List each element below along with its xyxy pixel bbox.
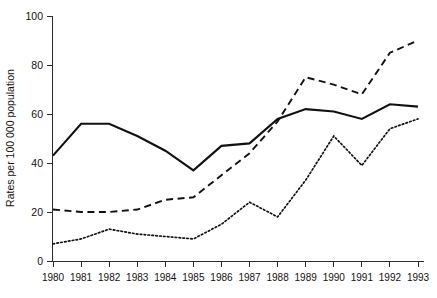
line-chart: 020406080100 Rates per 100 000 populatio… [0, 0, 437, 298]
x-tick-label: 1991 [351, 272, 374, 283]
x-tick-marks [53, 262, 418, 268]
x-tick-label: 1982 [98, 272, 121, 283]
x-tick-label: 1981 [70, 272, 93, 283]
y-tick-labels: 020406080100 [25, 10, 43, 267]
x-tick-label: 1983 [126, 272, 149, 283]
series-line-solid [53, 104, 418, 170]
y-tick-label: 80 [31, 59, 43, 71]
x-tick-label: 1992 [379, 272, 402, 283]
x-tick-label: 1989 [295, 272, 318, 283]
y-tick-label: 100 [25, 10, 43, 22]
x-tick-label: 1980 [42, 272, 65, 283]
x-tick-label: 1986 [210, 272, 233, 283]
chart-canvas: 020406080100 Rates per 100 000 populatio… [0, 0, 437, 298]
x-tick-labels: 1980198119821983198419851986198719881989… [42, 272, 430, 283]
x-tick-label: 1985 [182, 272, 205, 283]
y-tick-marks [47, 16, 53, 261]
y-tick-label: 0 [37, 255, 43, 267]
y-axis-title: Rates per 100 000 population [4, 69, 16, 207]
x-tick-label: 1993 [407, 272, 430, 283]
y-tick-label: 20 [31, 206, 43, 218]
series-line-dashed [53, 41, 418, 213]
x-tick-label: 1988 [266, 272, 289, 283]
series-line-dotted [53, 119, 418, 244]
y-axis-group: 020406080100 Rates per 100 000 populatio… [4, 10, 53, 267]
x-tick-label: 1990 [323, 272, 346, 283]
x-axis-group: 1980198119821983198419851986198719881989… [42, 262, 430, 284]
x-tick-label: 1984 [154, 272, 177, 283]
y-tick-label: 40 [31, 157, 43, 169]
y-tick-label: 60 [31, 108, 43, 120]
data-series-group [53, 41, 418, 244]
x-tick-label: 1987 [238, 272, 261, 283]
